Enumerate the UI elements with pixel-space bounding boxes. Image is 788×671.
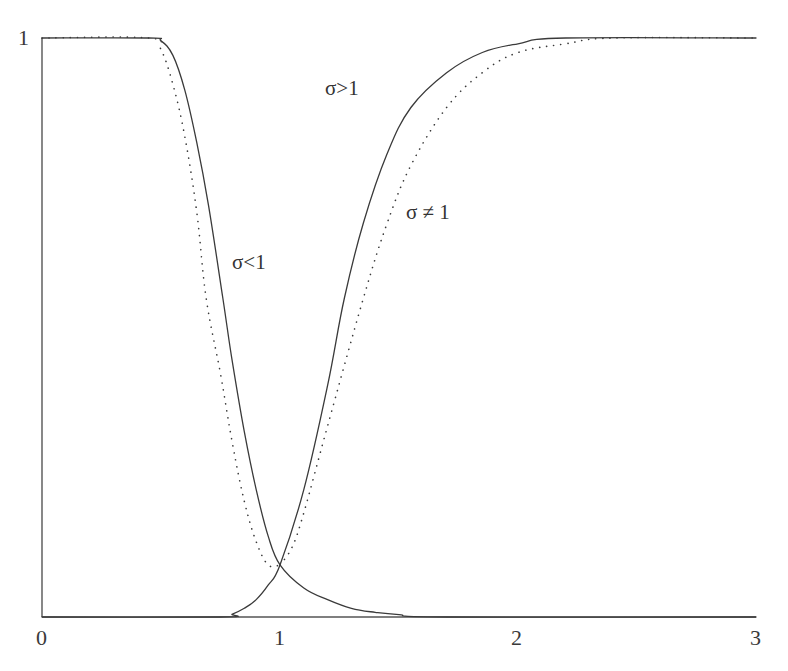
x-tick-3: 3 bbox=[750, 625, 761, 650]
y-tick-1: 1 bbox=[18, 25, 29, 50]
series-line-3 bbox=[280, 38, 756, 565]
x-tick-0: 0 bbox=[36, 625, 47, 650]
series-line-2 bbox=[42, 38, 756, 618]
chart-plot: 1 0 1 2 3 σ>1 σ ≠ 1 σ<1 bbox=[0, 0, 788, 671]
series-line-1 bbox=[42, 37, 280, 567]
curves bbox=[42, 37, 756, 617]
label-sigma-lt-1: σ<1 bbox=[232, 250, 266, 274]
label-sigma-gt-1: σ>1 bbox=[325, 76, 359, 100]
x-tick-2: 2 bbox=[511, 625, 522, 650]
x-tick-1: 1 bbox=[274, 625, 285, 650]
series-line-0 bbox=[42, 38, 756, 617]
label-sigma-ne-1: σ ≠ 1 bbox=[406, 200, 450, 224]
